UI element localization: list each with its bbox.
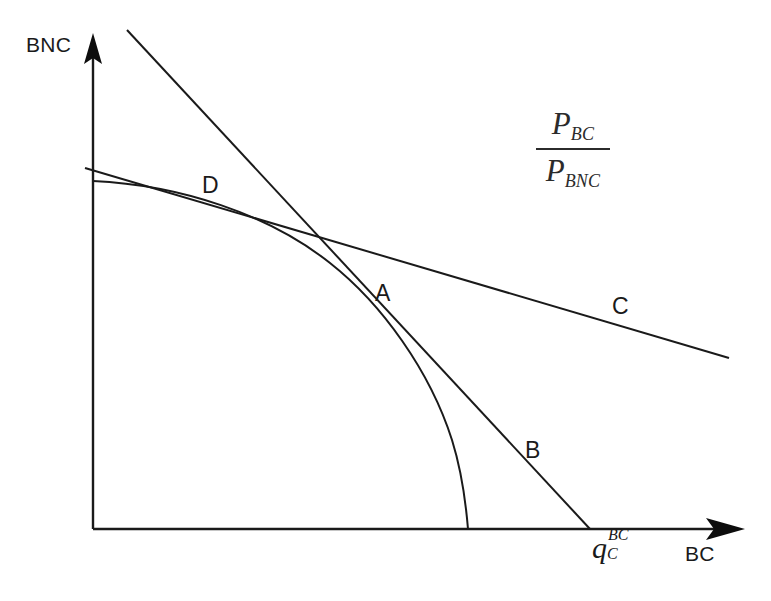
line-label-c: C	[612, 293, 629, 320]
price-ratio-annotation: PBC PBNC	[533, 108, 613, 190]
point-label-d: D	[202, 172, 219, 199]
price-symbol-denominator: P	[546, 153, 565, 188]
price-symbol-numerator: P	[552, 106, 571, 141]
x-axis-label: BC	[685, 542, 715, 566]
point-label-a: A	[375, 280, 390, 307]
y-axis-label: BNC	[26, 33, 71, 57]
line-label-b: B	[525, 437, 540, 464]
price-ratio-denominator: PBNC	[533, 150, 613, 190]
price-ratio-numerator: PBC	[533, 108, 613, 147]
quantity-superscript: BC	[608, 526, 628, 544]
quantity-scripts: BCC	[607, 528, 633, 558]
quantity-label: qBCC	[592, 528, 633, 565]
price-line-c	[85, 168, 729, 358]
quantity-subscript: C	[607, 545, 618, 563]
ppf-curve	[93, 181, 468, 529]
price-subscript-numerator: BC	[571, 124, 594, 144]
price-line-b	[127, 30, 590, 529]
ppf-diagram-figure: BNC BC D A C B PBC PBNC qBCC	[0, 0, 771, 601]
price-subscript-denominator: BNC	[565, 171, 601, 191]
quantity-symbol: q	[592, 531, 607, 564]
